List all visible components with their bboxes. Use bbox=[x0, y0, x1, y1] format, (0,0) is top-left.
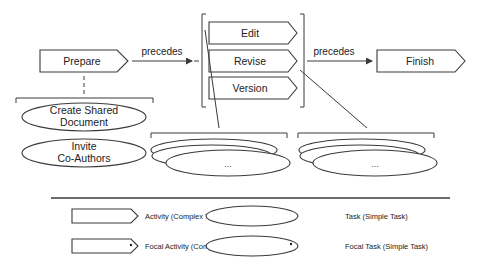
legend: Activity (Complex Task) Task (Simple Tas… bbox=[72, 206, 429, 256]
legend-focal-task: Focal Task (Simple Task) bbox=[206, 236, 429, 256]
activity-version-label: Version bbox=[232, 82, 267, 94]
activity-prepare-label: Prepare bbox=[63, 55, 101, 67]
task-invite-co-authors-label-2: Co-Authors bbox=[57, 152, 110, 164]
activity-prepare[interactable]: Prepare bbox=[40, 50, 128, 72]
focal-activity-shape-icon bbox=[72, 239, 138, 253]
legend-focal-task-label: Focal Task (Simple Task) bbox=[345, 242, 429, 251]
activity-edit-label: Edit bbox=[241, 27, 259, 39]
task-stack-revise-ellipsis: ... bbox=[371, 159, 379, 169]
edge-precedes-2: precedes bbox=[307, 46, 372, 61]
task-create-shared-document-label-2: Document bbox=[60, 116, 108, 128]
activity-version[interactable]: Version bbox=[209, 77, 297, 99]
focal-marker-icon bbox=[130, 244, 132, 246]
activity-revise[interactable]: Revise bbox=[209, 50, 297, 72]
focal-marker-icon bbox=[290, 243, 292, 245]
activity-diagram: Prepare precedes Edit Revise Version pre… bbox=[0, 0, 478, 273]
edge-precedes-2-label: precedes bbox=[313, 46, 354, 57]
activity-finish[interactable]: Finish bbox=[377, 50, 465, 72]
legend-task-label: Task (Simple Task) bbox=[345, 212, 408, 221]
task-create-shared-document[interactable]: Create Shared Document bbox=[22, 103, 146, 131]
activity-shape-icon bbox=[72, 209, 138, 223]
activity-edit[interactable]: Edit bbox=[209, 22, 297, 44]
task-stack-revise[interactable]: ... bbox=[299, 139, 437, 176]
task-stack-edit-ellipsis: ... bbox=[224, 159, 232, 169]
task-shape-icon bbox=[206, 206, 298, 226]
legend-activity: Activity (Complex Task) bbox=[72, 209, 223, 223]
focal-task-shape-icon bbox=[206, 236, 298, 256]
task-invite-co-authors[interactable]: Invite Co-Authors bbox=[22, 139, 146, 167]
task-invite-co-authors-label-1: Invite bbox=[71, 140, 96, 152]
task-stack-edit[interactable]: ... bbox=[151, 139, 290, 176]
revise-decomposition bbox=[298, 70, 434, 138]
edge-precedes-1-label: precedes bbox=[141, 46, 182, 57]
task-create-shared-document-label-1: Create Shared bbox=[50, 104, 118, 116]
edge-precedes-1: precedes bbox=[132, 46, 199, 61]
prepare-decomposition bbox=[16, 76, 153, 103]
activity-finish-label: Finish bbox=[406, 55, 434, 67]
activity-revise-label: Revise bbox=[234, 55, 266, 67]
legend-task: Task (Simple Task) bbox=[206, 206, 408, 226]
